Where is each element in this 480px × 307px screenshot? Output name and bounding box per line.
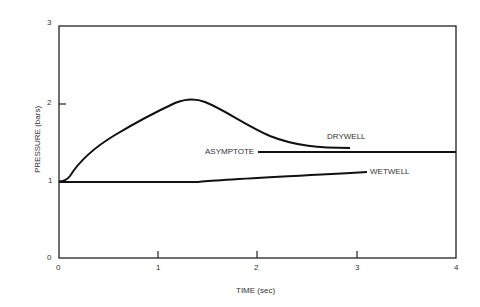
wetwell-label: WETWELL	[370, 167, 410, 176]
asymptote-label: ASYMPTOTE	[205, 147, 254, 156]
wetwell-line	[59, 172, 367, 182]
plot-frame	[59, 26, 456, 258]
y-tick-label-0: 0	[47, 253, 51, 262]
y-tick-label-2: 2	[47, 98, 51, 107]
x-tick-label-2: 2	[254, 263, 258, 272]
y-tick-label-1: 1	[48, 176, 52, 185]
x-tick-label-3: 3	[355, 263, 359, 272]
x-tick-label-0: 0	[56, 263, 60, 272]
x-tick-label-1: 1	[156, 263, 160, 272]
x-tick-label-4: 4	[454, 263, 458, 272]
x-axis-title: TIME (sec)	[236, 286, 275, 295]
drywell-line	[59, 99, 350, 182]
y-tick-label-3: 3	[47, 18, 51, 27]
drywell-label: DRYWELL	[327, 132, 366, 141]
y-axis-title: PRESSURE (bars)	[33, 95, 42, 185]
